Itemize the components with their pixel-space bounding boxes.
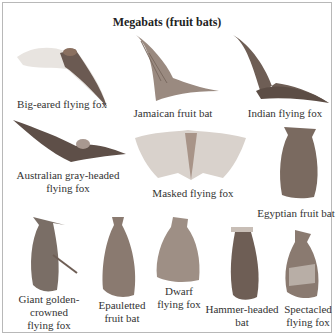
figure-title: Megabats (fruit bats) <box>3 15 331 30</box>
label-hammer-headed-bat: Hammer-headed bat <box>201 303 283 329</box>
jamaican-fruit-bat-image <box>131 33 221 108</box>
australian-gray-headed-flying-fox-image <box>11 118 126 163</box>
label-egyptian-fruit-bat: Egyptian fruit bat <box>251 207 336 220</box>
egyptian-fruit-bat-image <box>276 125 321 200</box>
label-masked-flying-fox: Masked flying fox <box>143 187 243 200</box>
dwarf-flying-fox-image <box>153 215 203 285</box>
hammer-headed-bat-image <box>225 225 265 305</box>
label-indian-flying-fox: Indian flying fox <box>239 107 331 120</box>
spectacled-flying-fox-image <box>281 228 326 300</box>
label-jamaican-fruit-bat: Jamaican fruit bat <box>123 107 223 120</box>
label-giant-golden-crowned-flying-fox: Giant golden- crowned flying fox <box>5 293 93 332</box>
label-big-eared-flying-fox: Big-eared flying fox <box>7 98 117 111</box>
figure-frame: Megabats (fruit bats) Big-eared flying f… <box>2 2 332 333</box>
giant-golden-crowned-flying-fox-image <box>25 215 80 295</box>
label-spectacled-flying-fox: Spectacled flying fox <box>279 303 336 329</box>
masked-flying-fox-image <box>133 128 248 183</box>
label-dwarf-flying-fox: Dwarf flying fox <box>151 285 207 311</box>
label-epauletted-fruit-bat: Epauletted fruit bat <box>91 299 153 325</box>
indian-flying-fox-image <box>231 33 331 108</box>
epauletted-fruit-bat-image <box>98 215 143 300</box>
label-australian-gray-headed-flying-fox: Australian gray-headed flying fox <box>9 169 127 195</box>
